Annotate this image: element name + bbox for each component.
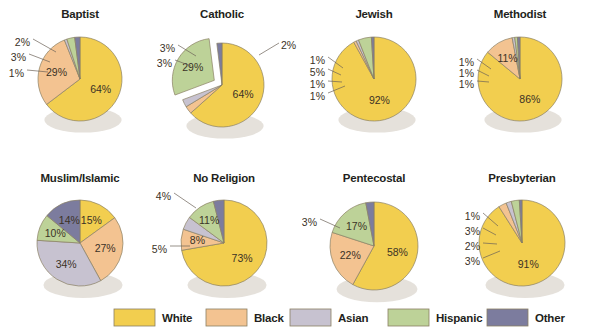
slice-label-black: 11%: [497, 52, 517, 64]
pie-chart-methodist: Methodist86%11%1%1%1%: [459, 8, 562, 133]
slice-label-hispanic: 11%: [199, 214, 219, 226]
legend-item-black: Black: [206, 309, 284, 326]
slice-label-other: 1%: [459, 56, 474, 68]
legend-item-other: Other: [487, 309, 565, 326]
pie-chart-no-religion: No Religion73%8%11%5%4%: [152, 172, 267, 298]
slice-label-other: 4%: [156, 190, 171, 202]
legend-label-white: White: [162, 312, 192, 324]
slice-label-asian: 2%: [465, 240, 480, 252]
legend-item-asian: Asian: [290, 309, 368, 326]
slice-label-black: 1%: [310, 90, 325, 102]
pie-title: Methodist: [494, 8, 547, 20]
legend-item-hispanic: Hispanic: [388, 309, 483, 326]
slice-label-white: 92%: [369, 94, 390, 106]
pie-chart-muslim-islamic: Muslim/Islamic15%27%34%10%14%: [37, 172, 123, 298]
slice-label-asian: 5%: [152, 243, 167, 255]
legend-swatch-black: [206, 309, 247, 326]
slice-label-hispanic: 1%: [459, 67, 474, 79]
leader-line-other: [259, 43, 279, 55]
slice-label-other: 3%: [302, 216, 317, 228]
legend-label-black: Black: [254, 312, 284, 324]
slice-label-asian: 34%: [56, 258, 77, 270]
leader-line-other: [33, 39, 56, 52]
pie-chart-baptist: Baptist64%29%1%3%2%: [9, 8, 122, 133]
slice-label-white: 15%: [81, 214, 102, 226]
slice-label-other: 2%: [15, 36, 30, 48]
pie-slice-other: [217, 43, 222, 85]
slice-label-black: 29%: [46, 66, 67, 78]
slice-label-asian: 1%: [310, 78, 325, 90]
legend-swatch-asian: [290, 309, 331, 326]
legend-label-other: Other: [535, 312, 565, 324]
slice-label-other: 14%: [59, 214, 80, 226]
pie-title: Muslim/Islamic: [40, 172, 120, 184]
slice-label-white: 64%: [233, 88, 254, 100]
cropped-caption: [0, 0, 597, 3]
slice-label-white: 73%: [232, 252, 253, 264]
slice-label-hispanic: 17%: [346, 220, 367, 232]
legend-label-asian: Asian: [338, 312, 368, 324]
legend-label-hispanic: Hispanic: [436, 312, 483, 324]
slice-label-black: 27%: [95, 242, 116, 254]
slice-label-black: 22%: [340, 249, 361, 261]
pie-title: Jewish: [355, 8, 392, 20]
slice-label-asian: 1%: [459, 78, 474, 90]
slice-label-white: 58%: [387, 246, 408, 258]
slice-label-hispanic: 5%: [310, 66, 325, 78]
slice-label-black: 8%: [190, 234, 205, 246]
legend: WhiteBlackAsianHispanicOther: [114, 309, 565, 326]
pie-chart-presbyterian: Presbyterian91%3%2%3%1%: [465, 172, 565, 298]
pie-title: No Religion: [193, 172, 255, 184]
slice-label-other: 1%: [465, 210, 480, 222]
legend-swatch-white: [114, 309, 155, 326]
slice-label-black: 3%: [465, 255, 480, 267]
pie-title: Pentecostal: [343, 172, 405, 184]
pie-title: Presbyterian: [488, 172, 555, 184]
slice-label-asian: 1%: [9, 67, 24, 79]
slice-label-white: 64%: [90, 83, 111, 95]
legend-swatch-hispanic: [388, 309, 429, 326]
legend-item-white: White: [114, 309, 192, 326]
pie-title: Baptist: [61, 8, 99, 20]
slice-label-hispanic: 29%: [182, 61, 203, 73]
pie-chart-jewish: Jewish92%1%1%5%1%: [310, 8, 416, 133]
slice-label-asian: 3%: [160, 42, 175, 54]
chart-canvas: Baptist64%29%1%3%2%Catholic64%29%3%3%2%J…: [0, 0, 597, 333]
slice-label-white: 91%: [518, 258, 539, 270]
slice-label-other: 2%: [281, 39, 296, 51]
slice-label-hispanic: 3%: [11, 51, 26, 63]
pie-chart-catholic: Catholic64%29%3%3%2%: [157, 8, 296, 139]
slice-label-other: 1%: [310, 54, 325, 66]
pie-chart-pentecostal: Pentecostal58%22%17%3%: [302, 172, 418, 302]
leader-line-other: [174, 193, 196, 208]
legend-swatch-other: [487, 309, 528, 326]
pie-chart-figure: Baptist64%29%1%3%2%Catholic64%29%3%3%2%J…: [0, 0, 597, 333]
slice-label-hispanic: 3%: [465, 225, 480, 237]
slice-label-white: 86%: [519, 93, 540, 105]
slice-label-black: 3%: [157, 57, 172, 69]
pie-title: Catholic: [200, 8, 245, 20]
slice-label-hispanic: 10%: [45, 227, 66, 239]
